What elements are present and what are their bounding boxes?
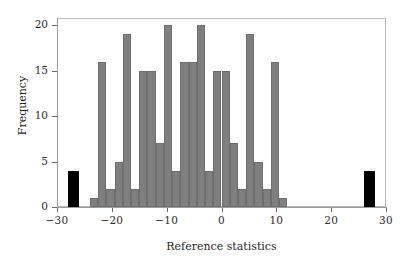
histogram-bar (222, 71, 230, 207)
histogram-bar (98, 62, 106, 207)
histogram-bar (147, 71, 155, 207)
y-tick-mark (52, 25, 57, 26)
y-tick-mark (52, 71, 57, 72)
x-axis-label: Reference statistics (57, 240, 386, 253)
histogram-bar (68, 171, 79, 207)
x-tick-label: 10 (256, 214, 296, 226)
histogram-bar (230, 143, 238, 207)
histogram-bar (131, 189, 139, 207)
histogram-bar (279, 198, 287, 207)
y-tick-mark (52, 207, 57, 208)
histogram-bar (205, 171, 213, 207)
x-tick-mark (112, 208, 113, 212)
y-tick-mark (52, 116, 57, 117)
histogram-bar (189, 62, 197, 207)
histogram-bar (123, 34, 131, 207)
x-tick-label: −30 (37, 214, 77, 226)
histogram-bar (254, 162, 262, 207)
histogram-bar (164, 25, 172, 207)
y-tick-mark (52, 162, 57, 163)
x-tick-mark (222, 208, 223, 212)
y-axis-line (57, 18, 58, 208)
x-tick-mark (57, 208, 58, 212)
histogram-bar (90, 198, 98, 207)
histogram-bar (364, 171, 375, 207)
histogram-bar (246, 34, 254, 207)
histogram-figure: −30−20−100102030 05101520 Reference stat… (0, 0, 411, 271)
x-tick-label: −20 (92, 214, 132, 226)
x-tick-label: 20 (311, 214, 351, 226)
x-tick-mark (331, 208, 332, 212)
histogram-bar (213, 71, 221, 207)
x-tick-mark (276, 208, 277, 212)
x-tick-mark (386, 208, 387, 212)
y-tick-label: 20 (22, 18, 48, 30)
y-tick-label: 0 (22, 200, 48, 212)
plot-area (57, 18, 386, 207)
histogram-bar (139, 71, 147, 207)
histogram-bar (271, 62, 279, 207)
x-tick-label: 30 (366, 214, 406, 226)
histogram-bar (106, 189, 114, 207)
x-tick-mark (167, 208, 168, 212)
y-axis-label: Frequency (16, 36, 29, 176)
histogram-bar (156, 143, 164, 207)
histogram-bar (115, 162, 123, 207)
x-tick-label: 0 (202, 214, 242, 226)
histogram-bar (238, 189, 246, 207)
x-tick-label: −10 (147, 214, 187, 226)
histogram-bar (197, 25, 205, 207)
histogram-bar (172, 171, 180, 207)
histogram-bar (263, 189, 271, 207)
histogram-bar (180, 62, 188, 207)
